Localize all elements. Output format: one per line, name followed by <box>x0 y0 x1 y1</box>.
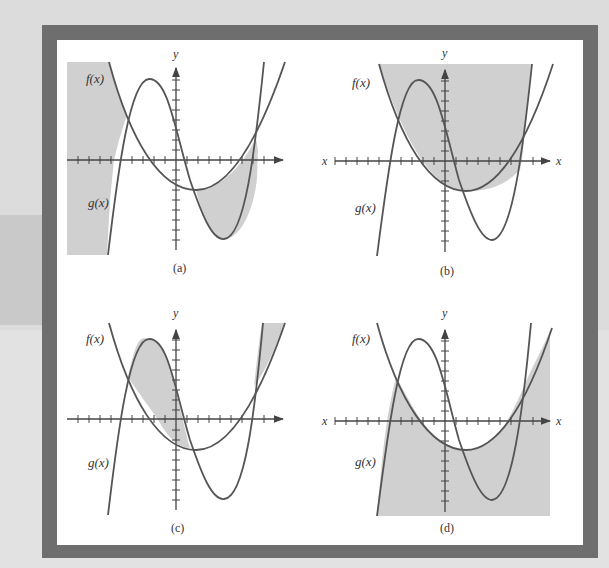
label-y-d: y <box>441 306 448 320</box>
label-x-right-b: x <box>555 154 562 168</box>
label-f-d: f(x) <box>352 331 370 346</box>
label-y-c: y <box>172 306 179 320</box>
label-g-b: g(x) <box>355 200 376 215</box>
label-f-b: f(x) <box>352 75 370 90</box>
caption-b: (b) <box>440 264 454 278</box>
caption-c: (c) <box>171 521 184 535</box>
shaded-region-d <box>377 330 550 516</box>
panel-a: f(x) g(x) y (a) <box>67 47 285 275</box>
label-f-a: f(x) <box>86 71 104 86</box>
figure-svg: f(x) g(x) y (a) f(x) g(x) y x <box>57 40 583 545</box>
label-x-left-d: x <box>321 414 328 428</box>
label-f-c: f(x) <box>86 331 104 346</box>
label-g-c: g(x) <box>88 455 109 470</box>
label-g-d: g(x) <box>355 454 376 469</box>
label-x-right-d: x <box>555 414 562 428</box>
caption-d: (d) <box>440 521 454 535</box>
caption-a: (a) <box>173 261 186 275</box>
figure-frame: f(x) g(x) y (a) f(x) g(x) y x <box>42 25 598 558</box>
label-y-b: y <box>441 46 448 60</box>
label-g-a: g(x) <box>88 195 109 210</box>
panel-c: f(x) g(x) y (c) <box>67 306 285 535</box>
figure-canvas: f(x) g(x) y (a) f(x) g(x) y x <box>57 40 583 545</box>
label-y-a: y <box>172 47 179 61</box>
panel-b: f(x) g(x) y x x (b) <box>321 46 562 278</box>
label-x-left-b: x <box>321 154 328 168</box>
curve-f-a <box>109 62 285 190</box>
panel-d: f(x) g(x) y x x (d) <box>321 306 562 535</box>
